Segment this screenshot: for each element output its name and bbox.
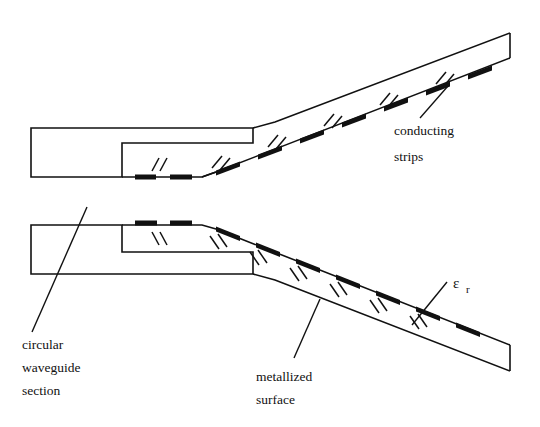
diagram-background bbox=[0, 0, 540, 427]
conducting-strips-label-line2: strips bbox=[394, 149, 423, 164]
circular-waveguide-label-line3: section bbox=[22, 383, 60, 398]
conducting-strip bbox=[170, 175, 192, 180]
conducting-strip bbox=[135, 175, 156, 180]
circular-waveguide-label-line1: circular bbox=[22, 337, 64, 352]
epsilon-symbol: ε bbox=[453, 275, 459, 291]
epsilon-subscript: r bbox=[466, 283, 470, 295]
conducting-strip bbox=[135, 221, 157, 226]
diagram-canvas: conducting strips circular waveguide sec… bbox=[0, 0, 540, 427]
technical-diagram: conducting strips circular waveguide sec… bbox=[0, 0, 540, 427]
conducting-strips-label-line1: conducting bbox=[394, 123, 454, 138]
metallized-surface-label-line2: surface bbox=[256, 392, 295, 407]
metallized-surface-label-line1: metallized bbox=[256, 369, 312, 384]
circular-waveguide-label-line2: waveguide bbox=[22, 360, 80, 375]
conducting-strip bbox=[170, 221, 192, 226]
